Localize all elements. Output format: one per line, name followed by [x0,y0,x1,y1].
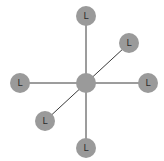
node-left: L [10,73,30,93]
node-label: L [17,78,22,88]
node-label: L [126,38,131,48]
node-bottom: L [76,138,96,158]
node-label: L [83,11,88,21]
star-graph-diagram: L L L L L L [0,0,164,161]
node-right: L [138,73,158,93]
node-label: L [145,78,150,88]
node-upper-right: L [119,33,139,53]
node-lower-left: L [35,111,55,131]
node-center [76,73,96,93]
node-top: L [76,6,96,26]
node-label: L [83,143,88,153]
node-label: L [42,116,47,126]
nodes: L L L L L L [10,6,158,158]
